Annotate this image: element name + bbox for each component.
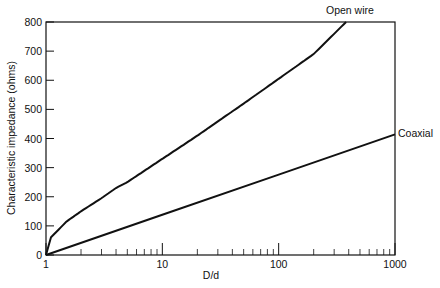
series-label-coaxial: Coaxial <box>398 127 433 139</box>
series-line <box>46 22 346 255</box>
y-tick-label: 600 <box>24 74 42 86</box>
y-tick-label: 400 <box>24 133 42 145</box>
series-label-open-wire: Open wire <box>326 4 374 16</box>
plot-frame <box>46 22 395 255</box>
y-axis-label: Characteristic impedance (ohms) <box>5 61 17 215</box>
x-tick-label: 10 <box>156 258 168 270</box>
x-axis-label: D/d <box>203 269 220 281</box>
x-tick-label: 1 <box>43 258 49 270</box>
y-tick-label: 300 <box>24 162 42 174</box>
y-tick-label: 200 <box>24 191 42 203</box>
x-tick-label: 1000 <box>383 258 407 270</box>
y-axis: 0100200300400500600700800 <box>24 16 54 261</box>
y-tick-label: 0 <box>36 249 42 261</box>
y-tick-label: 700 <box>24 45 42 57</box>
y-tick-label: 500 <box>24 103 42 115</box>
series-line <box>46 134 395 255</box>
x-tick-label: 100 <box>270 258 288 270</box>
x-axis: 1101001000 <box>43 243 407 270</box>
impedance-chart: 0100200300400500600700800 1101001000 D/d… <box>0 0 440 288</box>
series-lines <box>46 22 395 255</box>
y-tick-label: 100 <box>24 220 42 232</box>
y-tick-label: 800 <box>24 16 42 28</box>
